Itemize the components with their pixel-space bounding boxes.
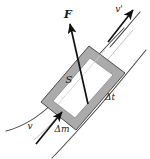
velocity-out-arrow-line (108, 10, 133, 42)
velocity-out-label: v' (115, 4, 123, 14)
streamline-upper-tail (110, 12, 140, 47)
time-interval-label: Δt (104, 92, 115, 102)
force-label: F (63, 8, 73, 21)
control-volume-band (41, 46, 125, 130)
velocity-out-vector: v' (108, 4, 133, 42)
velocity-in-label: v (27, 121, 32, 131)
diagram-canvas: F v' v Δm S Δt (0, 0, 150, 159)
physics-diagram: F v' v Δm S Δt (0, 0, 150, 159)
area-label: S (66, 74, 73, 85)
mass-element-label: Δm (53, 124, 69, 134)
